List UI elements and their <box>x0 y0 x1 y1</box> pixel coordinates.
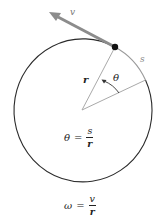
velocity-label: v <box>70 7 75 17</box>
circular-motion-diagram: v s r θ <box>0 0 158 220</box>
numerator: v <box>89 194 96 206</box>
fraction-s-over-r: s r <box>86 126 93 148</box>
theta-formula: θ = s r <box>64 126 93 148</box>
radius-line-reference <box>82 80 146 110</box>
arc-length-label: s <box>140 54 145 64</box>
omega-formula: ω = v r <box>64 194 96 216</box>
denominator: r <box>87 138 92 149</box>
radius-label: r <box>83 74 89 85</box>
velocity-arrow-shaft <box>58 17 115 47</box>
particle-dot <box>112 44 118 50</box>
angle-label: θ <box>113 72 119 83</box>
numerator: s <box>86 126 93 138</box>
theta-symbol: θ <box>64 132 70 143</box>
fraction-v-over-r: v r <box>89 194 96 216</box>
equals-sign: = <box>74 132 82 143</box>
circle-outline <box>14 39 152 182</box>
denominator: r <box>90 206 95 217</box>
omega-symbol: ω <box>64 200 72 211</box>
equals-sign: = <box>76 200 84 211</box>
